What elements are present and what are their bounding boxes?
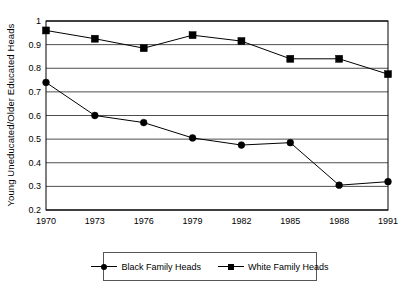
chart-legend: Black Family HeadsWhite Family Heads	[103, 252, 317, 281]
data-point-marker	[238, 38, 245, 45]
x-axis-tick-label: 1985	[270, 216, 310, 226]
series-black-family-heads	[43, 79, 392, 189]
y-axis-tick-label: 1	[15, 16, 41, 26]
data-point-marker	[336, 182, 343, 189]
legend-marker-square-icon	[218, 262, 244, 272]
y-axis-tick-label: 0.4	[15, 158, 41, 168]
data-point-marker	[385, 71, 392, 78]
data-point-marker	[189, 32, 196, 39]
series-white-family-heads	[43, 27, 392, 78]
legend-entry: White Family Heads	[218, 262, 329, 272]
x-axis-tick-label: 1973	[75, 216, 115, 226]
x-axis-tick-label: 1976	[124, 216, 164, 226]
data-point-marker	[287, 139, 294, 146]
legend-entry: Black Family Heads	[91, 262, 201, 272]
data-point-marker	[385, 178, 392, 185]
legend-entry-label: White Family Heads	[248, 262, 329, 272]
data-point-marker	[140, 45, 147, 52]
y-axis-tick-label: 0.7	[15, 87, 41, 97]
x-axis-tick-label: 1970	[26, 216, 66, 226]
data-point-marker	[140, 119, 147, 126]
y-axis-tick-label: 0.9	[15, 40, 41, 50]
legend-marker-circle-icon	[91, 262, 117, 272]
y-axis-tick-label: 0.6	[15, 111, 41, 121]
y-axis-tick-label: 0.5	[15, 134, 41, 144]
legend-entry-label: Black Family Heads	[121, 262, 201, 272]
y-axis-tick-label: 0.2	[15, 205, 41, 215]
data-point-marker	[91, 112, 98, 119]
data-point-marker	[91, 35, 98, 42]
line-chart-plot	[0, 0, 411, 293]
data-point-marker	[43, 27, 50, 34]
data-point-marker	[43, 79, 50, 86]
series-line	[46, 82, 388, 185]
y-axis-tick-label: 0.8	[15, 63, 41, 73]
data-point-marker	[287, 55, 294, 62]
x-axis-tick-label: 1979	[173, 216, 213, 226]
chart-figure: Young Uneducated/Older Educated Heads 0.…	[0, 0, 411, 293]
x-axis-tick-label: 1988	[319, 216, 359, 226]
data-point-marker	[238, 142, 245, 149]
legend-sample-marker	[101, 264, 107, 270]
data-point-marker	[336, 55, 343, 62]
x-axis-tick-label: 1991	[368, 216, 408, 226]
data-point-marker	[189, 135, 196, 142]
legend-sample-marker	[228, 264, 234, 270]
x-axis-tick-label: 1982	[221, 216, 261, 226]
y-axis-tick-label: 0.3	[15, 181, 41, 191]
